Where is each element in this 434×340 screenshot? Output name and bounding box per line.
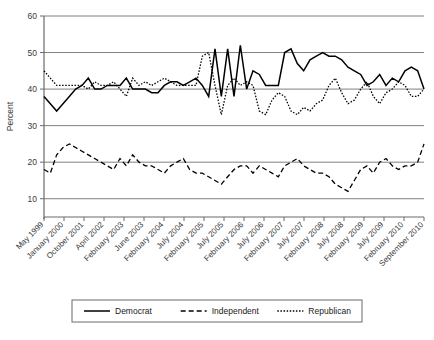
chart-legend: DemocratIndependentRepublican xyxy=(72,300,362,322)
y-tick-label: 50 xyxy=(28,48,38,58)
legend-label-democrat: Democrat xyxy=(115,306,152,316)
y-tick-label: 20 xyxy=(28,157,38,167)
series-republican xyxy=(44,53,424,115)
data-series xyxy=(44,45,424,191)
legend-label-independent: Independent xyxy=(212,306,260,316)
y-tick-label: 60 xyxy=(28,11,38,21)
gridlines xyxy=(44,16,424,199)
y-tick-label: 30 xyxy=(28,121,38,131)
y-axis-tick-labels: 102030405060 xyxy=(28,11,38,204)
y-tick-label: 40 xyxy=(28,84,38,94)
x-axis-ticks xyxy=(44,217,424,221)
legend-label-republican: Republican xyxy=(308,306,351,316)
series-democrat xyxy=(44,45,424,111)
line-chart: 102030405060 May 1999January 2000October… xyxy=(0,0,434,340)
series-independent xyxy=(44,144,424,192)
axis-lines xyxy=(44,16,424,219)
x-axis-tick-labels: May 1999January 2000October 2001April 20… xyxy=(14,220,426,269)
y-tick-label: 10 xyxy=(28,194,38,204)
y-axis-label: Percent xyxy=(5,101,15,131)
chart-container: 102030405060 May 1999January 2000October… xyxy=(0,0,434,340)
